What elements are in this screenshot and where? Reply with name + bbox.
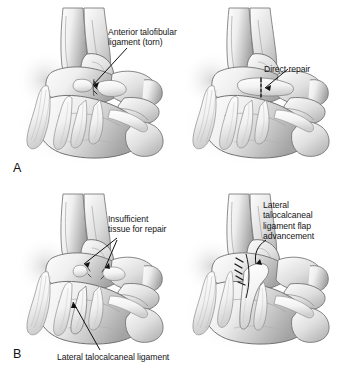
panel-letter-b: B (13, 348, 21, 361)
label-insufficient-tissue-for-repair: Insufficient tissue for repair (108, 214, 166, 235)
figure-canvas: Anterior talofibular ligament (torn) (0, 0, 338, 371)
label-lateral-talocalcaneal-ligament: Lateral talocalcaneal ligament (57, 352, 169, 362)
panel-letter-a: A (13, 162, 21, 175)
illustration-a-right (172, 6, 332, 174)
label-anterior-talofibular-ligament-torn: Anterior talofibular ligament (torn) (108, 27, 177, 48)
label-direct-repair: Direct repair (264, 64, 310, 74)
label-lateral-talocalcaneal-ligament-flap-advancement: Lateral talocalcaneal ligament flap adva… (263, 200, 314, 242)
